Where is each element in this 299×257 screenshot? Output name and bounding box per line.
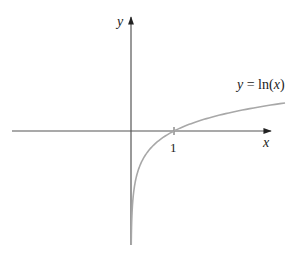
curve-label: y = ln(x)	[235, 77, 285, 93]
x-axis-label: x	[262, 135, 270, 150]
y-axis-label: y	[115, 14, 124, 29]
curve-label-eq: = ln(	[243, 77, 274, 93]
ln-graph: y x 1 y = ln(x)	[0, 0, 299, 257]
tick-label-1: 1	[170, 140, 177, 155]
curve-label-close: )	[280, 77, 285, 93]
ln-curve	[131, 103, 285, 245]
